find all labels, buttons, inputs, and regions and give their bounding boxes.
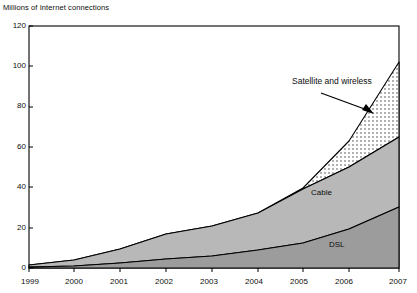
series-label-dsl: DSL — [329, 240, 345, 249]
series-label-cable: Cable — [311, 188, 332, 197]
chart-plot-area — [0, 0, 417, 293]
annotation-satellite-and-wireless: Satellite and wireless — [292, 76, 372, 86]
chart-container: Millions of Internet connections 120 100… — [0, 0, 417, 293]
